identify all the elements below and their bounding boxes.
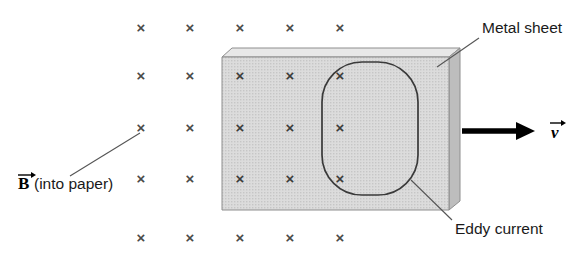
field-into-page-marker: × [236,170,245,187]
field-into-page-marker: × [137,67,146,84]
diagram-canvas: × × × × × × × × × × × × × × × × × × × × … [0,0,580,256]
eddy-current-label: Eddy current [455,220,544,237]
field-into-page-marker: × [286,19,295,36]
field-into-page-marker: × [336,119,345,136]
field-into-page-marker: × [336,229,345,246]
field-into-page-marker: × [186,229,195,246]
field-into-page-marker: × [336,19,345,36]
velocity-label: v [550,120,566,142]
b-field-leader-line [70,133,140,176]
b-field-label: B (into paper) [18,172,113,193]
field-into-page-marker: × [137,119,146,136]
field-into-page-marker: × [236,229,245,246]
field-into-page-marker: × [286,170,295,187]
field-into-page-marker: × [186,170,195,187]
field-into-page-marker: × [286,67,295,84]
field-into-page-marker: × [236,19,245,36]
field-into-page-marker: × [236,67,245,84]
velocity-arrow [462,122,535,140]
field-into-page-marker: × [286,119,295,136]
sheet-right-edge-face [449,48,460,210]
field-into-page-marker: × [137,170,146,187]
sheet-top-face [222,48,460,57]
field-into-page-marker: × [336,170,345,187]
velocity-arrow-head [516,122,535,140]
b-field-qualifier: (into paper) [34,175,113,192]
physics-diagram-eddy-current: × × × × × × × × × × × × × × × × × × × × … [0,0,580,256]
field-into-page-marker: × [336,67,345,84]
b-field-symbol: B [18,174,29,193]
field-into-page-marker: × [286,229,295,246]
velocity-symbol: v [551,123,559,142]
field-into-page-marker: × [137,19,146,36]
field-into-page-marker: × [236,119,245,136]
field-into-page-marker: × [186,19,195,36]
field-into-page-marker: × [186,67,195,84]
field-into-page-marker: × [186,119,195,136]
metal-sheet-label: Metal sheet [482,19,563,36]
v-vector-arrow-head [561,120,566,126]
field-into-page-marker: × [137,229,146,246]
